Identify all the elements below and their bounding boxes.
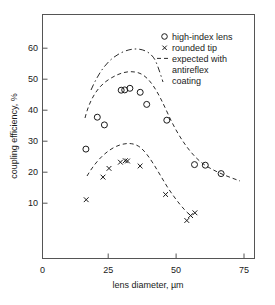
x-tick-label-75: 75: [239, 265, 249, 275]
legend-label-expected-with: expected with: [172, 54, 227, 64]
y-tick-label-10: 10: [28, 198, 38, 208]
x-tick-label-50: 50: [171, 265, 181, 275]
scatter-plot: 10 20 30 40 50 60 0 25 50 75 lens diamet…: [0, 0, 275, 305]
y-tick-label-30: 30: [28, 136, 38, 146]
y-tick-label-20: 20: [28, 167, 38, 177]
legend-label-coating: coating: [172, 76, 201, 86]
y-tick-label-50: 50: [28, 74, 38, 84]
y-tick-label-40: 40: [28, 105, 38, 115]
y-tick-label-60: 60: [28, 43, 38, 53]
chart-figure: 10 20 30 40 50 60 0 25 50 75 lens diamet…: [0, 0, 275, 305]
x-tick-label-25: 25: [103, 265, 113, 275]
legend-label-antireflex: antireflex: [172, 65, 209, 75]
y-axis-title: coupling efficiency, %: [9, 93, 19, 179]
legend-label-high-index-lens: high-index lens: [172, 32, 233, 42]
x-axis-title: lens diameter, µm: [112, 280, 183, 290]
x-tick-label-0: 0: [40, 265, 45, 275]
legend-label-rounded-tip: rounded tip: [172, 43, 217, 53]
figure-background: [0, 0, 275, 305]
